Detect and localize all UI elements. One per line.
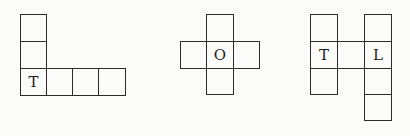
square [364,14,392,42]
square [364,68,392,95]
square [310,68,338,95]
labeled-square: L [364,41,392,69]
figure-h-shape: TL [0,0,410,136]
square [310,14,338,42]
labeled-square: T [310,41,338,69]
square [364,94,392,121]
square [337,41,365,69]
